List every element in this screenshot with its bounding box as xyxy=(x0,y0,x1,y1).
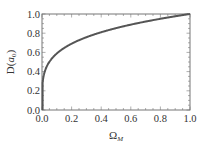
y-tick-label: 0.2 xyxy=(27,85,40,96)
x-tick-label: 1.0 xyxy=(183,113,196,124)
x-tick-labels: 0.00.20.40.60.81.0 xyxy=(35,113,196,124)
x-axis-label: ΩM xyxy=(109,129,124,143)
x-tick-label: 0.8 xyxy=(154,113,167,124)
y-tick-label: 0.6 xyxy=(27,47,40,58)
y-tick-label: 1.0 xyxy=(27,9,40,20)
y-tick-label: 0.4 xyxy=(27,66,41,77)
y-tick-label: 0.8 xyxy=(27,28,40,39)
x-tick-label: 0.4 xyxy=(95,113,109,124)
x-tick-label: 0.6 xyxy=(124,113,137,124)
x-tick-label: 0.2 xyxy=(65,113,78,124)
data-line xyxy=(43,14,190,110)
y-axis-label: D(a0) xyxy=(4,50,18,75)
chart: 0.00.20.40.60.81.0 0.00.20.40.60.81.0 ΩM… xyxy=(0,0,205,145)
y-tick-label: 0.0 xyxy=(27,105,40,116)
y-tick-labels: 0.00.20.40.60.81.0 xyxy=(27,9,41,116)
